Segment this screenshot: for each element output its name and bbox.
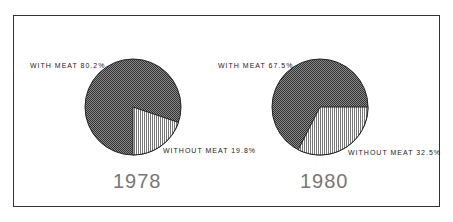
pie-charts bbox=[0, 0, 453, 222]
year-1978: 1978 bbox=[113, 170, 162, 193]
year-1980: 1980 bbox=[300, 170, 349, 193]
label-1978-without-meat: WITHOUT MEAT 19.8% bbox=[163, 147, 256, 154]
label-1980-without-meat: WITHOUT MEAT 32.5% bbox=[348, 149, 441, 156]
pie-1978 bbox=[85, 59, 181, 155]
pie-1980 bbox=[272, 59, 368, 155]
label-1978-with-meat: WITH MEAT 80.2% bbox=[30, 62, 105, 69]
label-1980-with-meat: WITH MEAT 67.5% bbox=[218, 62, 293, 69]
